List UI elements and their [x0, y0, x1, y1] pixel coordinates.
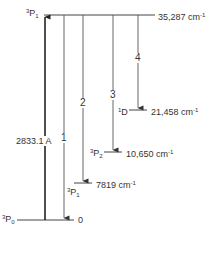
term-1d: 1D — [118, 105, 128, 117]
energy-7819: 7819 cm-1 — [96, 178, 136, 190]
term-3p1-top: 3P1 — [26, 6, 39, 21]
excitation-label: 2833.1 A — [15, 136, 53, 146]
term-3p1: 3P1 — [67, 185, 80, 200]
energy-35287: 35,287 cm-1 — [158, 10, 205, 22]
term-3p2: 3P2 — [90, 146, 103, 161]
energy-level-diagram: 3P1 35,287 cm-1 1D 21,458 cm-1 3P2 10,65… — [0, 0, 214, 256]
transition-1-label: 1 — [60, 133, 68, 143]
term-3p0: 3P0 — [2, 212, 15, 227]
transition-3-label: 3 — [109, 90, 117, 100]
energy-0: 0 — [78, 215, 83, 225]
energy-21458: 21,458 cm-1 — [151, 105, 198, 117]
transition-2-label: 2 — [79, 98, 87, 108]
energy-10650: 10,650 cm-1 — [126, 147, 173, 159]
diagram-lines — [0, 0, 214, 256]
transition-4-label: 4 — [134, 53, 142, 63]
